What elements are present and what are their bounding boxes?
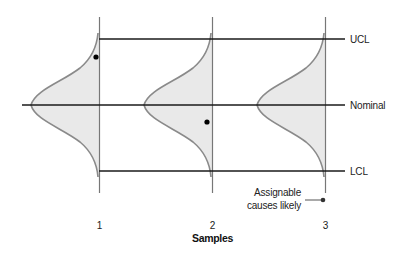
nominal-label: Nominal [350,100,385,111]
legend-text-line-1: Assignable [254,187,302,198]
sample-label-1: 1 [97,220,103,231]
x-axis-title: Samples [192,232,234,244]
control-chart-diagram: UCL Nominal LCL Assignable causes likely… [0,0,397,263]
sample-point-2 [204,119,209,124]
lcl-label: LCL [350,166,368,177]
legend-text-line-2: causes likely [247,200,301,211]
sample-label-3: 3 [323,220,329,231]
ucl-label: UCL [350,34,370,45]
sample-point-1 [93,54,98,59]
sample-label-2: 2 [210,220,216,231]
legend-dot-icon [321,198,326,203]
